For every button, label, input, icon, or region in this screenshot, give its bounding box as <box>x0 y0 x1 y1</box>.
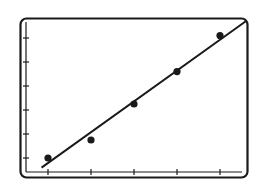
chart-canvas <box>0 0 260 188</box>
data-point <box>173 68 180 75</box>
data-point <box>130 100 137 107</box>
chart-frame <box>21 19 248 178</box>
fit-line <box>42 21 246 167</box>
data-point <box>44 154 51 161</box>
scatter-chart-with-fit-line <box>0 0 260 188</box>
data-point <box>87 136 94 143</box>
data-point <box>216 32 223 39</box>
